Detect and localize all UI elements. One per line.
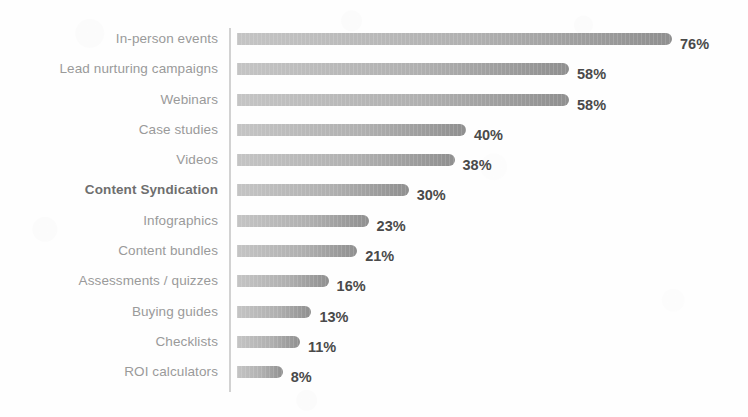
bar <box>237 124 466 136</box>
value-label: 40% <box>474 125 503 145</box>
category-label: Case studies <box>0 119 218 141</box>
bar-track: 16% <box>237 275 748 287</box>
bar-row: Videos38% <box>0 149 748 179</box>
bar-row: Buying guides13% <box>0 301 748 331</box>
category-label: Content Syndication <box>0 179 218 201</box>
plot-area: In-person events76%Lead nurturing campai… <box>0 0 748 417</box>
bar-rows: In-person events76%Lead nurturing campai… <box>0 28 748 392</box>
category-label: Assessments / quizzes <box>0 270 218 292</box>
bar-row: Infographics23% <box>0 210 748 240</box>
bar <box>237 184 409 196</box>
bar <box>237 366 283 378</box>
bar-row: In-person events76% <box>0 28 748 58</box>
bar <box>237 215 369 227</box>
bar <box>237 154 455 166</box>
bar <box>237 94 569 106</box>
bar-track: 13% <box>237 306 748 318</box>
bar-row: Case studies40% <box>0 119 748 149</box>
category-label: Webinars <box>0 89 218 111</box>
value-label: 30% <box>417 185 446 205</box>
value-label: 8% <box>291 367 312 387</box>
category-label: In-person events <box>0 28 218 50</box>
value-label: 58% <box>577 95 606 115</box>
bar-chart: In-person events76%Lead nurturing campai… <box>0 0 748 417</box>
bar-row: ROI calculators8% <box>0 361 748 391</box>
bar <box>237 245 357 257</box>
value-label: 76% <box>680 34 709 54</box>
value-label: 21% <box>365 246 394 266</box>
bar-track: 40% <box>237 124 748 136</box>
category-label: Checklists <box>0 331 218 353</box>
value-label: 11% <box>308 337 336 357</box>
bar-row: Lead nurturing campaigns58% <box>0 58 748 88</box>
value-label: 58% <box>577 64 606 84</box>
bar <box>237 275 329 287</box>
bar-track: 8% <box>237 366 748 378</box>
bar-track: 11% <box>237 336 748 348</box>
bar-track: 21% <box>237 245 748 257</box>
bar-row: Webinars58% <box>0 89 748 119</box>
category-label: Content bundles <box>0 240 218 262</box>
bar-track: 30% <box>237 184 748 196</box>
category-label: Lead nurturing campaigns <box>0 58 218 80</box>
bar-row: Checklists11% <box>0 331 748 361</box>
bar <box>237 336 300 348</box>
bar-track: 58% <box>237 63 748 75</box>
value-label: 16% <box>337 276 366 296</box>
bar-track: 76% <box>237 33 748 45</box>
bar <box>237 63 569 75</box>
bar-row: Assessments / quizzes16% <box>0 270 748 300</box>
value-label: 23% <box>377 216 406 236</box>
category-label: ROI calculators <box>0 361 218 383</box>
category-label: Videos <box>0 149 218 171</box>
bar-row: Content Syndication30% <box>0 179 748 209</box>
value-label: 38% <box>463 155 492 175</box>
bar <box>237 306 311 318</box>
value-label: 13% <box>319 307 348 327</box>
bar-track: 23% <box>237 215 748 227</box>
bar-track: 38% <box>237 154 748 166</box>
bar <box>237 33 672 45</box>
category-label: Buying guides <box>0 301 218 323</box>
bar-row: Content bundles21% <box>0 240 748 270</box>
bar-track: 58% <box>237 94 748 106</box>
category-label: Infographics <box>0 210 218 232</box>
